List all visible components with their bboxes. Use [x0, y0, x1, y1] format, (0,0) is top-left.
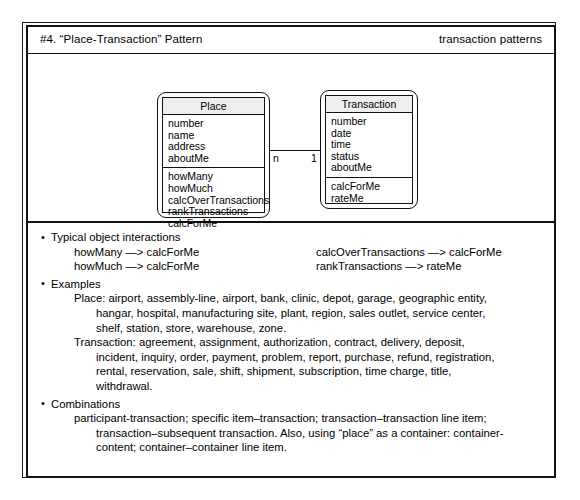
attribute: number	[331, 116, 412, 128]
operation: howMuch	[168, 183, 264, 195]
bullet-icon: •	[41, 230, 45, 245]
combinations-line: participant-transaction; specific item–t…	[40, 411, 544, 426]
section-heading-interactions: • Typical object interactions	[40, 230, 544, 245]
uml-class-transaction: Transaction number date time status abou…	[320, 90, 418, 209]
heading-text: Combinations	[51, 398, 120, 410]
interaction-row: howMuch —> calcForMe rankTransactions —>…	[40, 259, 544, 274]
bullet-icon: •	[41, 396, 45, 411]
section-heading-combinations: • Combinations	[40, 397, 544, 412]
attribute-compartment-place: number name address aboutMe	[163, 115, 264, 168]
interaction-left: howMuch —> calcForMe	[74, 259, 199, 274]
card-body: • Typical object interactions howMany —>…	[28, 223, 554, 476]
uml-class-place: Place number name address aboutMe howMan…	[157, 92, 270, 218]
attribute-compartment-transaction: number date time status aboutMe	[326, 113, 412, 178]
examples-place-line: Place: airport, assembly-line, airport, …	[40, 291, 544, 306]
association-line	[270, 150, 320, 151]
combinations-line: content; container–container line item.	[40, 440, 544, 455]
pattern-card: #4. “Place-Transaction” Pattern transact…	[26, 25, 556, 478]
operation: rateMe	[331, 193, 412, 205]
attribute: aboutMe	[168, 153, 264, 165]
interaction-row: howMany —> calcForMe calcOverTransaction…	[40, 245, 544, 260]
class-inner-frame: Place number name address aboutMe howMan…	[162, 97, 265, 213]
pattern-category: transaction patterns	[439, 33, 542, 45]
examples-place-line: hangar, hospital, manufacturing site, pl…	[40, 306, 544, 321]
pattern-card-page: #4. “Place-Transaction” Pattern transact…	[0, 0, 580, 500]
interaction-left: howMany —> calcForMe	[74, 245, 199, 260]
heading-text: Examples	[51, 278, 101, 290]
heading-text: Typical object interactions	[51, 231, 180, 243]
card-header: #4. “Place-Transaction” Pattern transact…	[28, 27, 554, 54]
bullet-icon: •	[41, 276, 45, 291]
multiplicity-target: 1	[311, 152, 317, 164]
interaction-right: calcOverTransactions —> calcForMe	[316, 245, 502, 260]
combinations-line: transaction–subsequent transaction. Also…	[40, 426, 544, 441]
class-inner-frame: Transaction number date time status abou…	[325, 95, 413, 204]
examples-transaction-line: rental, reservation, sale, shift, shipme…	[40, 364, 544, 379]
class-name-place: Place	[163, 98, 264, 115]
interaction-right: rankTransactions —> rateMe	[316, 259, 462, 274]
examples-place-line: shelf, station, store, warehouse, zone.	[40, 321, 544, 336]
pattern-title: #4. “Place-Transaction” Pattern	[40, 33, 202, 45]
attribute: aboutMe	[331, 162, 412, 174]
class-name-transaction: Transaction	[326, 96, 412, 113]
examples-transaction-line: Transaction: agreement, assignment, auth…	[40, 335, 544, 350]
operation: calcForMe	[331, 181, 412, 193]
examples-transaction-line: incident, inquiry, order, payment, probl…	[40, 350, 544, 365]
operation-compartment-transaction: calcForMe rateMe	[326, 178, 412, 207]
multiplicity-source: n	[273, 152, 279, 164]
operation: rankTransactions	[168, 206, 264, 218]
uml-diagram-area: Place number name address aboutMe howMan…	[28, 54, 554, 223]
attribute: number	[168, 118, 264, 130]
section-heading-examples: • Examples	[40, 277, 544, 292]
examples-transaction-line: withdrawal.	[40, 379, 544, 394]
